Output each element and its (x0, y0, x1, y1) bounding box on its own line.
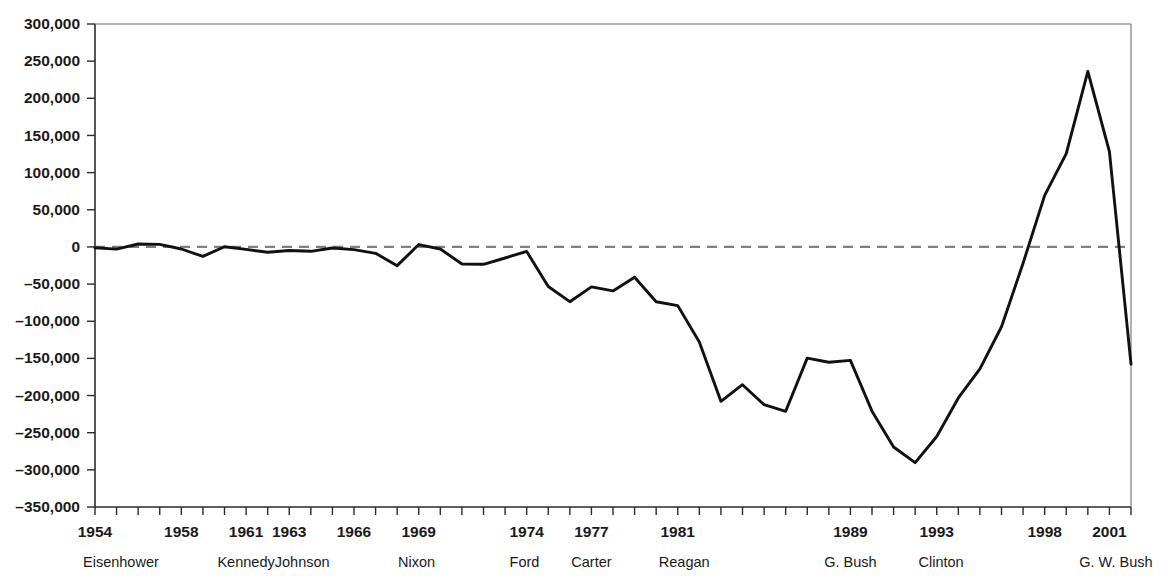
y-tick-label: –150,000 (15, 349, 80, 366)
administration-label: Johnson (275, 554, 330, 570)
x-tick-label: 1966 (337, 523, 372, 540)
y-tick-label: 250,000 (24, 52, 80, 69)
y-tick-label: –300,000 (15, 461, 80, 478)
x-tick-label: 1981 (661, 523, 696, 540)
y-tick-label: 300,000 (24, 15, 80, 32)
y-axis-tick-labels: 300,000250,000200,000150,000100,00050,00… (15, 15, 80, 515)
administration-label: Reagan (659, 554, 710, 570)
x-tick-label: 1977 (574, 523, 608, 540)
administration-label: Ford (510, 554, 540, 570)
administration-label: Eisenhower (83, 554, 159, 570)
x-tick-label: 1963 (272, 523, 307, 540)
administration-label: Carter (571, 554, 611, 570)
x-tick-label: 1989 (833, 523, 868, 540)
y-tick-label: 100,000 (24, 164, 80, 181)
y-tick-label: 200,000 (24, 89, 80, 106)
x-axis-tick-labels: 1954195819611963196619691974197719811989… (78, 523, 1127, 540)
x-tick-label: 1961 (229, 523, 264, 540)
y-tick-label: –250,000 (15, 424, 80, 441)
y-tick-label: 150,000 (24, 127, 80, 144)
administration-labels: EisenhowerKennedyJohnsonNixonFordCarterR… (83, 554, 1153, 570)
chart-canvas: 300,000250,000200,000150,000100,00050,00… (0, 0, 1168, 587)
x-tick-label: 1954 (78, 523, 113, 540)
administration-label: G. Bush (824, 554, 876, 570)
y-tick-label: –200,000 (15, 387, 80, 404)
administration-label: Nixon (398, 554, 435, 570)
deficit-series-line (95, 71, 1131, 462)
y-axis-tick-marks (87, 24, 95, 507)
x-axis-tick-marks (95, 507, 1131, 515)
y-tick-label: 50,000 (33, 201, 80, 218)
x-tick-label: 1958 (164, 523, 199, 540)
budget-deficit-chart: 300,000250,000200,000150,000100,00050,00… (0, 0, 1168, 587)
x-tick-label: 1974 (509, 523, 544, 540)
x-tick-label: 1998 (1027, 523, 1062, 540)
administration-label: Clinton (918, 554, 963, 570)
y-tick-label: 0 (71, 238, 80, 255)
y-tick-label: –100,000 (15, 312, 80, 329)
y-tick-label: –350,000 (15, 498, 80, 515)
y-tick-label: –50,000 (24, 275, 80, 292)
administration-label: G. W. Bush (1079, 554, 1152, 570)
x-tick-label: 2001 (1092, 523, 1127, 540)
x-tick-label: 1993 (920, 523, 955, 540)
administration-label: Kennedy (217, 554, 275, 570)
x-tick-label: 1969 (402, 523, 437, 540)
